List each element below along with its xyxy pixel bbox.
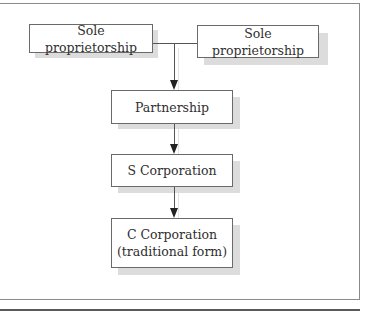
frame-right-border	[359, 3, 360, 300]
frame-top-border	[0, 3, 360, 4]
connector-shadow	[178, 193, 179, 218]
node-label: S Corporation	[127, 162, 216, 179]
c-corporation-box: C Corporation (traditional form)	[111, 218, 233, 268]
bottom-rule	[0, 309, 360, 311]
node-label: Partnership	[135, 99, 209, 116]
node-label: Sole proprietorship	[30, 22, 152, 56]
sole-proprietorship-right-box: Sole proprietorship	[197, 25, 319, 58]
connector-line	[174, 187, 175, 210]
s-corporation-box: S Corporation	[111, 154, 233, 187]
connector-shadow	[178, 48, 179, 90]
node-label-line2: (traditional form)	[117, 243, 227, 260]
node-label: Sole proprietorship	[198, 25, 318, 59]
partnership-box: Partnership	[111, 90, 233, 124]
frame-bottom-border	[0, 299, 360, 300]
connector-line	[174, 43, 175, 81]
arrow-down-icon	[170, 208, 178, 218]
arrow-down-icon	[170, 144, 178, 154]
connector-shadow	[178, 129, 179, 154]
node-label-line1: C Corporation	[127, 226, 217, 243]
sole-proprietorship-left-box: Sole proprietorship	[29, 24, 153, 53]
connector-line	[174, 124, 175, 146]
arrow-down-icon	[170, 80, 178, 90]
merge-connector	[153, 43, 197, 44]
